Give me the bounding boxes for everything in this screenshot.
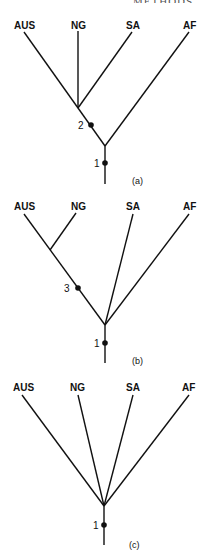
- branch-sa: [105, 214, 133, 325]
- taxon-label-ng: NG: [70, 382, 85, 393]
- cladogram-figure: AUS NG SA AF 2 1 (a) AUS NG SA AF 3 1 (b…: [0, 0, 209, 556]
- taxon-label-ng: NG: [71, 20, 86, 31]
- marker-dot-1: [102, 160, 108, 166]
- marker-label-1: 1: [94, 158, 100, 169]
- tree-b: AUS NG SA AF 3 1 (b): [14, 201, 196, 366]
- marker-label-1: 1: [93, 520, 99, 531]
- marker-label-2: 2: [78, 120, 84, 131]
- branch-sa: [78, 32, 132, 108]
- taxon-label-aus: AUS: [13, 382, 34, 393]
- taxon-label-sa: SA: [126, 382, 140, 393]
- taxon-label-aus: AUS: [14, 20, 35, 31]
- marker-dot-2: [88, 122, 94, 128]
- branch-af: [105, 32, 189, 146]
- marker-label-3: 3: [64, 283, 70, 294]
- taxon-label-ng: NG: [71, 201, 86, 212]
- taxon-label-af: AF: [183, 20, 196, 31]
- marker-dot-1: [102, 340, 108, 346]
- tree-c: AUS NG SA AF 1 (c): [13, 382, 195, 550]
- taxon-label-sa: SA: [126, 201, 140, 212]
- taxon-label-sa: SA: [126, 20, 140, 31]
- marker-label-1: 1: [94, 338, 100, 349]
- branch-af: [104, 395, 189, 506]
- branch-ng: [50, 213, 76, 250]
- taxon-label-aus: AUS: [14, 201, 35, 212]
- marker-dot-3: [75, 285, 81, 291]
- taxon-label-af: AF: [183, 201, 196, 212]
- marker-dot-1: [101, 522, 107, 528]
- branch-sa: [104, 395, 133, 506]
- tree-a: AUS NG SA AF 2 1 (a): [14, 20, 196, 186]
- taxon-label-af: AF: [182, 382, 195, 393]
- branch-af: [105, 214, 189, 325]
- branch-aus: [24, 32, 105, 146]
- tree-caption-b: (b): [132, 356, 143, 366]
- branch-aus: [24, 214, 105, 325]
- tree-caption-a: (a): [132, 176, 143, 186]
- tree-caption-c: (c): [129, 540, 140, 550]
